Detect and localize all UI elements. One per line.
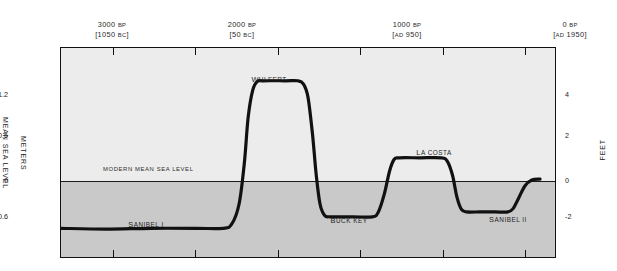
sea-level-curve-figure: 3000 BP [1050 BC] 2000 BP [50 BC] 1000 B… [0,0,617,271]
phase-label-rest: ANIBEL I [134,221,164,228]
plot-area: MODERN MEAN SEA LEVEL SANIBEL I [60,47,556,258]
y-axis-left-title-line2: METERS [19,117,28,189]
x-label-secondary-unit: AD [556,32,565,38]
x-label-unit: BP [569,22,577,28]
phase-label-rest: A COSTA [421,149,452,156]
y-left-tick-label--0_6: -0.6 [0,212,8,221]
x-label-primary: 1000 [393,20,411,29]
x-label-secondary-close: 950] [403,30,421,39]
phase-label-buck-key: BUCK KEY [331,216,368,225]
y-left-tick-label-0: 0 [4,176,8,185]
phase-label-la-costa: LA COSTA [416,148,451,157]
phase-label-rest: ANIBEL II [495,216,527,223]
x-label-primary: 3000 [98,20,116,29]
x-label-unit: BP [118,22,126,28]
x-axis-label-0bp: 0 BP [AD 1950] [524,20,616,40]
x-label-secondary-close: ] [252,30,254,39]
y-left-tick-label-1_2: 1.2 [0,90,8,99]
phase-label-sanibel-i: SANIBEL I [128,220,163,229]
y-axis-right-title-text: FEET [599,139,606,161]
y-tick-right-major [555,181,556,183]
y-tick-right-major [555,216,556,218]
x-label-primary: 0 [562,20,566,29]
phase-label-rest: UCK KEY [336,217,368,224]
x-label-unit: BP [413,22,421,28]
x-label-unit: BP [248,22,256,28]
phase-label-wulfert: WULFERT [251,75,286,84]
x-axis-label-3000bp: 3000 BP [1050 BC] [66,20,158,40]
x-label-primary: 2000 [228,20,246,29]
x-label-secondary-close: 1950] [564,30,587,39]
y-right-tick-label-0: 0 [565,176,569,185]
y-right-tick-label-2: 2 [565,131,569,140]
sea-level-curve-path [61,81,540,230]
x-axis-label-2000bp: 2000 BP [50 BC] [196,20,288,40]
y-axis-left-title: MEAN SEA LEVEL METERS [6,78,22,228]
phase-label-sanibel-ii: SANIBEL II [489,215,527,224]
y-right-tick-label--2: -2 [565,212,571,221]
y-right-tick-label-4: 4 [565,90,569,99]
y-axis-right-title: FEET [594,110,610,190]
x-axis-label-1000bp: 1000 BP [AD 950] [361,20,453,40]
x-label-secondary-open: [1050 [95,30,118,39]
x-label-secondary-unit: BC [243,32,252,38]
y-tick-right-major [555,94,556,96]
x-label-secondary-close: ] [126,30,128,39]
y-left-tick-label-0_6: 0.6 [0,131,8,140]
phase-label-rest: ULFERT [259,76,287,83]
x-label-secondary-open: [50 [230,30,244,39]
y-tick-right-minor [555,135,556,136]
